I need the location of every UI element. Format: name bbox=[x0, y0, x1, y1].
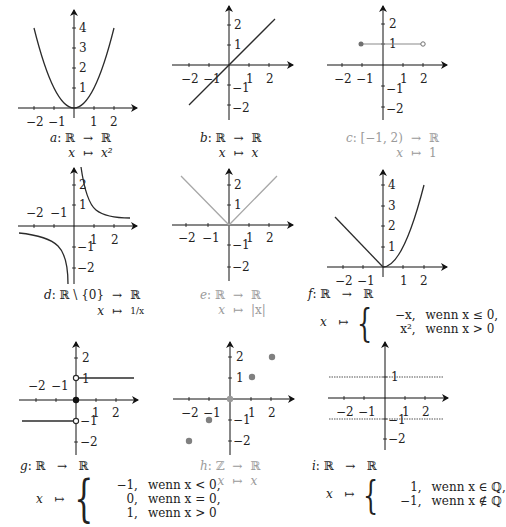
rule: 1 bbox=[429, 146, 437, 160]
definition-d: d: ℝ \ {0}→ℝ x↦1/x bbox=[40, 288, 148, 319]
codomain: ℝ bbox=[97, 131, 117, 146]
codomain: ℝ bbox=[246, 459, 264, 474]
maps-to: ↦ bbox=[228, 474, 246, 489]
variable: x bbox=[68, 146, 75, 160]
svg-text:2: 2 bbox=[111, 233, 119, 247]
function-name: b bbox=[200, 131, 208, 145]
svg-text:2: 2 bbox=[420, 274, 428, 288]
case-condition: wenn x = 0, bbox=[148, 492, 221, 506]
maps-to: ↦ bbox=[54, 492, 64, 507]
rule: x² bbox=[101, 146, 113, 160]
domain: ℝ bbox=[65, 131, 75, 145]
hyperbola-negative bbox=[19, 233, 68, 284]
svg-text:−2: −2 bbox=[233, 434, 251, 448]
maps-to: ↦ bbox=[338, 315, 348, 330]
svg-text:2: 2 bbox=[234, 178, 242, 192]
domain: [−1, 2) bbox=[361, 131, 403, 145]
graph-i: −2−1 12 1 −1−2 bbox=[328, 342, 448, 450]
svg-text:−1: −1 bbox=[80, 414, 98, 428]
svg-text:1: 1 bbox=[90, 115, 98, 129]
svg-text:−1: −1 bbox=[232, 238, 250, 252]
arrow: → bbox=[407, 131, 425, 146]
svg-text:2: 2 bbox=[236, 350, 244, 364]
definition-a: a: ℝ→ℝ x↦x² bbox=[46, 131, 117, 161]
svg-text:1: 1 bbox=[400, 274, 408, 288]
variable: x bbox=[396, 146, 403, 160]
svg-text:2: 2 bbox=[234, 18, 242, 32]
rule: x bbox=[250, 474, 257, 488]
variable: x bbox=[218, 474, 225, 488]
function-name: e bbox=[200, 288, 207, 302]
svg-text:−2: −2 bbox=[77, 261, 95, 275]
svg-text:1: 1 bbox=[82, 372, 90, 386]
svg-text:1: 1 bbox=[236, 371, 244, 385]
rule: 1/x bbox=[130, 306, 144, 316]
cases: 1,wenn x ∈ ℚ, −1,wenn x ∉ ℚ bbox=[384, 480, 506, 508]
domain: ℝ bbox=[320, 287, 330, 301]
svg-text:−1: −1 bbox=[77, 240, 95, 254]
branch-negative-x bbox=[335, 217, 383, 267]
maps-to: ↦ bbox=[230, 146, 248, 161]
graph-f: −2−1 12 12 34 bbox=[327, 170, 447, 288]
arrow: → bbox=[228, 459, 246, 474]
svg-text:−2: −2 bbox=[232, 260, 250, 274]
svg-text:2: 2 bbox=[112, 406, 120, 420]
graph-g: −2−1 12 21 −1−2 bbox=[19, 342, 138, 455]
svg-text:−1: −1 bbox=[386, 82, 404, 96]
svg-text:2: 2 bbox=[266, 72, 274, 86]
svg-text:−1: −1 bbox=[357, 274, 375, 288]
brace: { bbox=[363, 474, 378, 514]
case-condition: wenn x > 0 bbox=[426, 322, 495, 336]
maps-to: ↦ bbox=[79, 146, 97, 161]
case-value: −1, bbox=[100, 478, 148, 492]
arrow: → bbox=[79, 131, 97, 146]
open-point-1 bbox=[73, 375, 78, 380]
definition-h: h: ℤ→ℝ x↦x bbox=[196, 459, 264, 489]
arrow: → bbox=[229, 288, 247, 303]
maps-to: ↦ bbox=[108, 303, 126, 319]
domain: ℝ \ {0} bbox=[60, 288, 105, 302]
rule: |x| bbox=[251, 303, 266, 317]
svg-text:−2: −2 bbox=[334, 72, 352, 86]
brace: { bbox=[74, 474, 93, 524]
svg-text:4: 4 bbox=[388, 178, 396, 192]
case-value: −x, bbox=[378, 308, 426, 322]
graph-b: −2−1 12 21 −1−2 bbox=[172, 6, 293, 120]
svg-text:1: 1 bbox=[79, 198, 87, 212]
svg-text:−1: −1 bbox=[202, 231, 220, 245]
case-value: 0, bbox=[100, 492, 148, 506]
function-name: d bbox=[44, 288, 52, 302]
closed-point-origin bbox=[73, 397, 79, 403]
maps-to: ↦ bbox=[229, 303, 247, 318]
svg-text:3: 3 bbox=[79, 41, 87, 55]
case-value: x², bbox=[378, 322, 426, 336]
open-point-neg1 bbox=[73, 418, 78, 423]
domain: ℝ bbox=[324, 459, 334, 473]
svg-text:−1: −1 bbox=[48, 115, 66, 129]
function-name: c bbox=[346, 131, 353, 145]
svg-text:−2: −2 bbox=[178, 231, 196, 245]
svg-text:−1: −1 bbox=[50, 206, 68, 220]
svg-text:2: 2 bbox=[266, 231, 274, 245]
svg-text:−2: −2 bbox=[181, 406, 199, 420]
svg-text:2: 2 bbox=[389, 17, 397, 31]
svg-text:−1: −1 bbox=[358, 405, 376, 419]
svg-text:−2: −2 bbox=[26, 115, 44, 129]
case-condition: wenn x ≤ 0, bbox=[426, 308, 499, 322]
variable: x bbox=[36, 492, 43, 507]
svg-text:1: 1 bbox=[388, 240, 396, 254]
arrow: → bbox=[342, 287, 352, 301]
svg-text:−1: −1 bbox=[203, 406, 221, 420]
definition-b: b: ℝ→ℝ x↦x bbox=[196, 131, 266, 161]
variable: x bbox=[219, 146, 226, 160]
variable: x bbox=[218, 303, 225, 317]
svg-text:−1: −1 bbox=[388, 413, 406, 427]
arrow: → bbox=[345, 459, 355, 473]
svg-text:3: 3 bbox=[388, 199, 396, 213]
brace: { bbox=[357, 302, 372, 342]
rule: x bbox=[252, 146, 259, 160]
svg-text:−1: −1 bbox=[232, 81, 250, 95]
svg-text:−2: −2 bbox=[232, 101, 250, 115]
variable: x bbox=[320, 315, 327, 330]
